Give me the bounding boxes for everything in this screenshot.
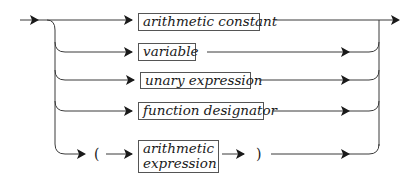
nonterminal-label: unary expression bbox=[145, 72, 263, 88]
alternative-unary-expression: unary expression bbox=[141, 70, 380, 89]
nonterminal-label: arithmetic constant bbox=[143, 13, 278, 29]
alternative-variable: variable bbox=[139, 42, 380, 61]
nonterminal-label-line2: expression bbox=[143, 155, 217, 171]
entry-connector bbox=[20, 15, 133, 25]
open-paren: ( bbox=[94, 146, 99, 162]
alternative-function-designator: function designator bbox=[139, 101, 380, 120]
syntax-diagram: arithmetic constant variable unary expre… bbox=[0, 0, 418, 181]
alternative-parenthesized-expression: ( arithmetic expression ) bbox=[94, 140, 379, 173]
left-branch-trunk bbox=[47, 20, 134, 154]
nonterminal-label: variable bbox=[143, 43, 198, 59]
nonterminal-label: function designator bbox=[142, 102, 279, 118]
close-paren: ) bbox=[256, 146, 261, 162]
nonterminal-label-line1: arithmetic bbox=[143, 140, 214, 156]
alternative-arithmetic-constant: arithmetic constant bbox=[139, 13, 401, 31]
